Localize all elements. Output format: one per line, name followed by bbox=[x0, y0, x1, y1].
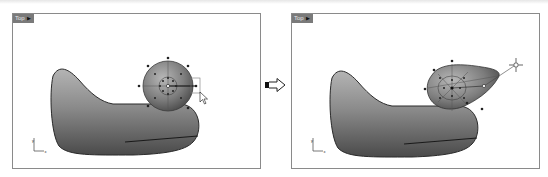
viewport-top-before[interactable]: Top ▶ y x bbox=[12, 13, 261, 169]
dropdown-caret-icon: ▶ bbox=[27, 14, 31, 23]
right-arrow-icon bbox=[262, 77, 288, 93]
duck-model-after bbox=[292, 14, 540, 169]
viewport-label-text: Top bbox=[294, 14, 304, 23]
duck-model-before bbox=[13, 14, 261, 169]
axis-y-label: y bbox=[311, 138, 313, 143]
viewport-top-after[interactable]: Top ▶ y x bbox=[291, 13, 540, 169]
axis-indicator: y x bbox=[310, 136, 326, 154]
cropped-header-strip bbox=[0, 0, 548, 4]
axis-indicator: y x bbox=[31, 136, 47, 154]
axis-y-label: y bbox=[32, 138, 34, 143]
move-gumball-icon bbox=[509, 58, 523, 72]
axis-x-label: x bbox=[324, 149, 326, 154]
viewport-label-menu[interactable]: Top ▶ bbox=[292, 14, 313, 23]
cursor-icon bbox=[200, 92, 208, 104]
viewport-label-menu[interactable]: Top ▶ bbox=[13, 14, 34, 23]
viewport-label-text: Top bbox=[15, 14, 25, 23]
axis-x-label: x bbox=[45, 149, 47, 154]
dropdown-caret-icon: ▶ bbox=[306, 14, 310, 23]
